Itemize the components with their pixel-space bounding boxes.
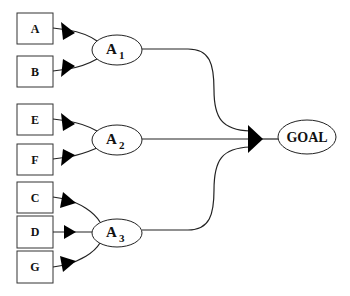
edge-f-to-a2 [53,148,97,159]
goal-tree-diagram: A B E F C D G A [0,0,350,296]
goal-arrowhead [248,125,263,153]
edge-a-to-a1 [53,28,97,41]
goal-label: GOAL [286,130,327,145]
leaf-node-f: F [17,144,53,175]
leaf-label-f: F [31,153,38,167]
leaf-node-b: B [17,56,53,87]
leaf-node-d: D [17,216,53,248]
arrowhead-g [60,256,76,272]
leaf-label-a: A [31,22,40,36]
action-label-a1: A [106,41,117,57]
action-node-a1: A 1 [92,35,142,65]
leaf-node-a: A [17,13,53,44]
action-label-a3: A [106,224,117,240]
action-node-a3: A 3 [92,219,142,247]
leaf-node-g: G [17,251,53,283]
leaf-label-g: G [30,260,39,274]
goal-node: GOAL [278,120,336,154]
action-subscript-a3: 3 [119,232,125,244]
arrowhead-f [61,149,75,166]
action-subscript-a1: 1 [119,49,125,61]
arrowhead-c [60,192,76,208]
leaf-node-e: E [17,104,53,135]
leaf-label-e: E [31,113,39,127]
edge-b-to-a1 [53,59,97,71]
action-node-a2: A 2 [92,125,142,155]
leaf-label-b: B [31,65,39,79]
arrowhead-d [64,225,76,239]
edge-c-to-a3 [53,197,100,222]
leaf-label-d: D [31,225,40,239]
action-subscript-a2: 2 [119,139,125,151]
action-label-a2: A [106,131,117,147]
leaf-node-c: C [17,182,53,213]
edge-e-to-a2 [53,119,97,131]
leaf-label-c: C [31,191,40,205]
edge-a3-to-goal [142,147,250,230]
edge-g-to-a3 [53,243,100,267]
edge-a1-to-goal [142,49,250,131]
